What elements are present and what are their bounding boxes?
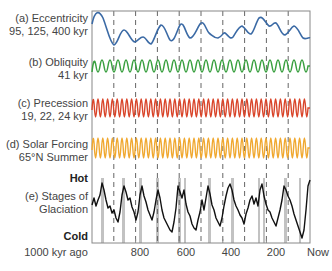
chart-canvas (0, 0, 332, 271)
x-tick-now: Now (307, 246, 329, 258)
x-tick-400: 400 (222, 246, 240, 258)
x-tick-1000: 1000 kyr ago (24, 246, 88, 258)
x-tick-600: 600 (177, 246, 195, 258)
x-tick-800: 800 (131, 246, 149, 258)
x-tick-200: 200 (267, 246, 285, 258)
